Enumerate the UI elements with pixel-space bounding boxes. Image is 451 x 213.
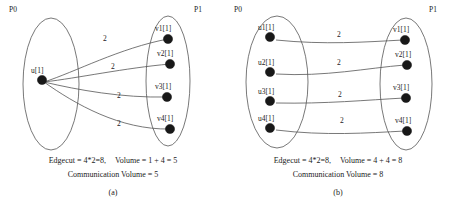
vertex-label-v1: v1[1] xyxy=(155,25,171,33)
vertex-u2 xyxy=(265,67,274,76)
vertex-label-v2: v2[1] xyxy=(395,51,411,59)
vertex-label-v4: v4[1] xyxy=(395,117,411,125)
panel-b-tag: (b) xyxy=(225,188,451,197)
vertex-label-v1: v1[1] xyxy=(393,26,409,34)
panel-b-edgecut: Edgecut = 4*2=8, xyxy=(274,156,331,165)
vertex-label-u2: u2[1] xyxy=(258,59,274,67)
edge-weight-u3-v3: 2 xyxy=(338,91,342,99)
vertex-u1 xyxy=(265,32,274,41)
vertex-v3 xyxy=(401,93,410,102)
edge-weight-u4-v4: 2 xyxy=(340,117,344,125)
edge-u-v3 xyxy=(44,82,167,97)
vertex-u xyxy=(37,75,46,84)
edge-u-v2 xyxy=(44,64,170,82)
panel-b-communication-volume: Communication Volume = 8 xyxy=(225,170,451,179)
vertex-label-u3: u3[1] xyxy=(258,88,274,96)
vertex-label-v3: v3[1] xyxy=(155,83,171,91)
panel-b-metrics-line: Edgecut = 4*2=8,Volume = 4 + 4 = 8 xyxy=(225,156,451,165)
edge-weight-u-v4: 2 xyxy=(117,120,121,128)
vertex-u3 xyxy=(265,96,274,105)
panel-a-metrics-line: Edgecut = 4*2=8,Volume = 1 + 4 = 5 xyxy=(0,156,226,165)
partition-label-p0: P0 xyxy=(234,6,242,14)
partition-label-p0: P0 xyxy=(9,6,17,14)
vertex-label-u: u[1] xyxy=(31,67,44,75)
panel-a-communication-volume: Communication Volume = 5 xyxy=(0,170,226,179)
edge-weight-u1-v1: 2 xyxy=(337,31,341,39)
vertex-v4 xyxy=(402,126,411,135)
vertex-u4 xyxy=(265,123,274,132)
vertex-v4 xyxy=(165,124,174,133)
vertex-v1 xyxy=(163,34,172,43)
edge-weight-u-v3: 2 xyxy=(117,92,121,100)
partition-label-p1: P1 xyxy=(194,6,202,14)
vertex-label-u4: u4[1] xyxy=(258,115,274,123)
panel-a-volume: Volume = 1 + 4 = 5 xyxy=(115,156,177,165)
vertex-v3 xyxy=(162,92,171,101)
vertex-label-v4: v4[1] xyxy=(157,115,173,123)
panel-b: P0 P1 u1[1] u2[1] u3[1] u4[1] v1[1] v2[1… xyxy=(225,0,451,213)
vertex-v1 xyxy=(400,35,409,44)
figure-graph-partitioning: P0 P1 u[1] v1[1] v2[1] v3[1] v4[1] 2 2 2… xyxy=(0,0,451,213)
edge-weight-u-v1: 2 xyxy=(103,35,107,43)
vertex-v2 xyxy=(165,59,174,68)
panel-a: P0 P1 u[1] v1[1] v2[1] v3[1] v4[1] 2 2 2… xyxy=(0,0,226,213)
partition-label-p1: P1 xyxy=(429,6,437,14)
edge-weight-u-v2: 2 xyxy=(111,63,115,71)
vertex-label-v3: v3[1] xyxy=(393,84,409,92)
edge-u1-v1 xyxy=(276,40,403,43)
vertex-label-v2: v2[1] xyxy=(157,50,173,58)
panel-b-volume: Volume = 4 + 4 = 8 xyxy=(340,156,402,165)
panel-a-tag: (a) xyxy=(0,188,226,197)
partition-ellipse-p0 xyxy=(246,16,308,148)
panel-a-graph xyxy=(0,0,226,150)
panel-a-edgecut: Edgecut = 4*2=8, xyxy=(49,156,106,165)
edge-weight-u2-v2: 2 xyxy=(337,59,341,67)
vertex-label-u1: u1[1] xyxy=(258,24,274,32)
vertex-v2 xyxy=(402,60,411,69)
edge-u4-v4 xyxy=(276,130,405,134)
